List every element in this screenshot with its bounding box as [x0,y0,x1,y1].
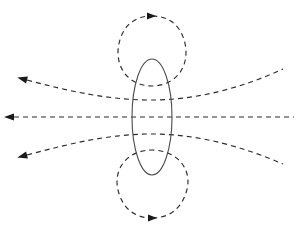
upper-left-arrow-icon [16,74,28,84]
field-diagram-canvas [0,0,298,234]
magnetic-field-diagram [0,0,298,234]
lower-closed-field-loop [117,150,188,218]
middle-left-arrow-icon [4,113,14,120]
lower-outward-field-line [27,134,283,164]
upper-closed-field-loop [118,16,186,86]
lower-left-arrow-icon [16,152,28,162]
upper-loop-arrow-icon [147,13,156,20]
upper-outward-field-line [27,69,283,100]
lower-loop-arrow-icon [148,215,157,222]
